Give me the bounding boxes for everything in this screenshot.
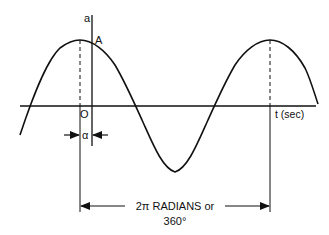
origin-label: O xyxy=(80,108,89,120)
period-label-line1: 2π RADIANS or xyxy=(136,200,215,212)
period-label-line2: 360° xyxy=(164,215,187,227)
point-a-label: A xyxy=(95,34,103,46)
alpha-label: α xyxy=(82,129,89,141)
sine-wave-diagram: a A O α t (sec) 2π RADIANS or 360° xyxy=(0,0,329,235)
time-axis-label: t (sec) xyxy=(275,108,304,120)
vertical-axis-label: a xyxy=(84,12,91,24)
